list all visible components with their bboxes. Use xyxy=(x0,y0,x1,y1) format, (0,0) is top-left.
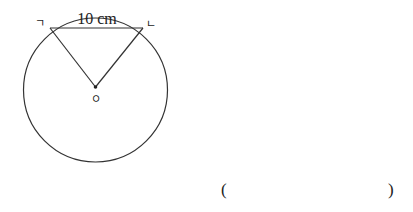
circle xyxy=(24,18,168,162)
chord-label: 10 cm xyxy=(77,10,117,27)
radius-right xyxy=(96,28,144,87)
point-right-label: ㄴ xyxy=(146,18,156,31)
center-label: ㅇ xyxy=(91,93,101,106)
answer-open-paren: ( xyxy=(221,180,227,200)
answer-close-paren: ) xyxy=(388,180,394,200)
answer-blank[interactable] xyxy=(232,182,382,202)
radius-left xyxy=(50,28,96,87)
center-point xyxy=(94,85,98,89)
circle-figure: 10 cm ㄱ ㄴ ㅇ xyxy=(0,0,413,212)
point-left-label: ㄱ xyxy=(35,17,45,30)
